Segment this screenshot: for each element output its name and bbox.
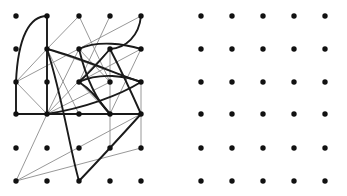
graph-node [198,46,203,51]
graph-node [13,178,18,183]
graph-node [44,178,49,183]
graph-node [322,145,327,150]
graph-node [260,178,265,183]
graph-node [260,79,265,84]
graph-node [138,13,143,18]
graph-node [44,46,49,51]
graph-drawing-svg [0,0,347,196]
graph-node [76,111,81,116]
graph-node [138,46,143,51]
graph-node [107,46,112,51]
graph-node [76,145,81,150]
graph-node [44,145,49,150]
graph-node [322,178,327,183]
graph-node [76,178,81,183]
graph-node [322,111,327,116]
graph-node [260,145,265,150]
graph-node [198,178,203,183]
graph-node [138,111,143,116]
graph-node [291,46,296,51]
graph-node [13,79,18,84]
graph-node [198,111,203,116]
graph-node [138,79,143,84]
graph-node [107,111,112,116]
graph-node [76,46,81,51]
graph-node [260,46,265,51]
graph-node [291,79,296,84]
graph-node [291,178,296,183]
figure-background [0,0,347,196]
graph-node [76,13,81,18]
graph-node [322,13,327,18]
graph-node [229,13,234,18]
graph-node [322,46,327,51]
graph-node [107,79,112,84]
figure-canvas [0,0,347,196]
graph-node [44,13,49,18]
graph-node [322,79,327,84]
graph-node [229,145,234,150]
graph-node [107,13,112,18]
graph-node [76,79,81,84]
graph-node [291,13,296,18]
graph-node [107,178,112,183]
graph-node [229,111,234,116]
graph-node [198,79,203,84]
graph-node [260,13,265,18]
graph-node [229,79,234,84]
graph-node [291,111,296,116]
graph-node [260,111,265,116]
graph-node [44,79,49,84]
graph-node [138,145,143,150]
graph-node [13,13,18,18]
graph-node [13,145,18,150]
graph-node [291,145,296,150]
graph-node [107,145,112,150]
graph-node [44,111,49,116]
graph-node [229,46,234,51]
graph-node [198,145,203,150]
graph-node [13,111,18,116]
graph-node [229,178,234,183]
graph-node [138,178,143,183]
graph-node [198,13,203,18]
graph-node [13,46,18,51]
